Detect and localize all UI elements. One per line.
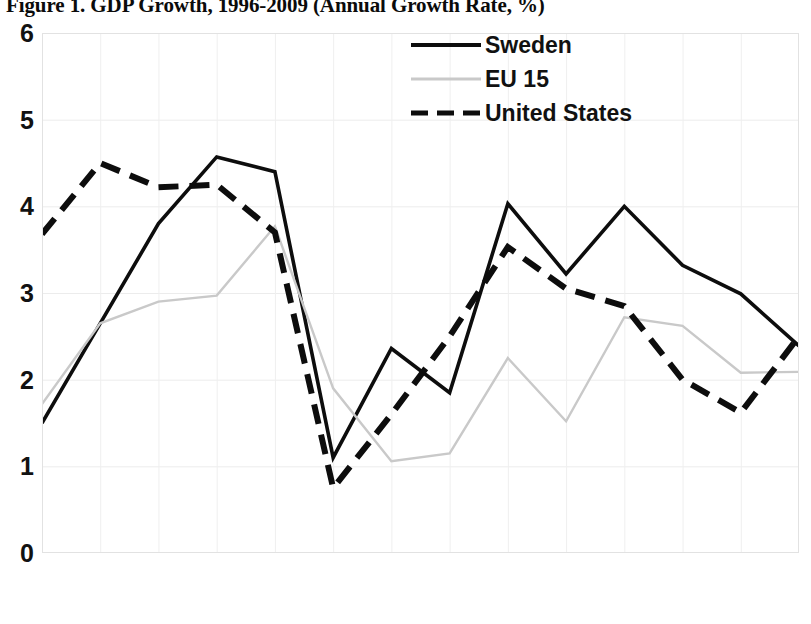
chart-legend: Sweden EU 15 United States xyxy=(409,28,664,130)
legend-label-sweden: Sweden xyxy=(483,32,572,59)
y-tick-label-6: 6 xyxy=(8,21,34,46)
chart-page: Figure 1. GDP Growth, 1996-2009 (Annual … xyxy=(0,0,811,624)
legend-swatch-united-states xyxy=(409,104,483,122)
page-title: Figure 1. GDP Growth, 1996-2009 (Annual … xyxy=(6,0,545,18)
legend-item-united-states: United States xyxy=(409,96,664,130)
y-tick-label-0: 0 xyxy=(8,541,34,566)
series-line-eu-15 xyxy=(42,226,799,461)
legend-label-eu15: EU 15 xyxy=(483,66,549,93)
y-tick-label-2: 2 xyxy=(8,367,34,392)
legend-swatch-sweden xyxy=(409,36,483,54)
y-tick-label-3: 3 xyxy=(8,281,34,306)
legend-item-eu15: EU 15 xyxy=(409,62,664,96)
x-axis-tick-labels: 1996199719981999200020012002200320042005… xyxy=(42,553,799,624)
y-tick-label-5: 5 xyxy=(8,107,34,132)
y-tick-label-4: 4 xyxy=(8,194,34,219)
legend-item-sweden: Sweden xyxy=(409,28,664,62)
legend-swatch-eu15 xyxy=(409,70,483,88)
legend-label-united-states: United States xyxy=(483,100,632,127)
series-line-united-states xyxy=(42,163,799,488)
y-tick-label-1: 1 xyxy=(8,454,34,479)
series-line-sweden xyxy=(42,157,799,458)
